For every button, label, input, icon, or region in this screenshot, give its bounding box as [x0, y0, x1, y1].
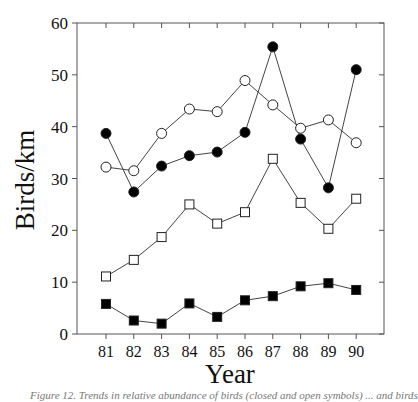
filled-square-marker [324, 279, 333, 288]
open-square-marker [296, 198, 305, 207]
series-filled-circle [101, 42, 361, 197]
x-tick-label: 85 [209, 343, 225, 360]
filled-circle-marker [323, 183, 333, 193]
filled-square-marker [296, 282, 305, 291]
y-tick-label: 30 [51, 170, 68, 189]
filled-circle-marker [240, 127, 250, 137]
plot-frame [77, 23, 384, 334]
x-tick-label: 81 [98, 343, 114, 360]
data-series [101, 42, 361, 328]
series-line [106, 47, 356, 192]
open-square-marker [157, 233, 166, 242]
filled-circle-marker [101, 128, 111, 138]
open-square-marker [185, 200, 194, 209]
open-circle-marker [101, 162, 111, 172]
filled-square-marker [213, 312, 222, 321]
x-tick-label: 82 [126, 343, 142, 360]
y-tick-label: 0 [60, 325, 69, 344]
x-axis-title: Year [205, 359, 255, 389]
open-square-marker [129, 255, 138, 264]
filled-circle-marker [268, 42, 278, 52]
open-square-marker [324, 224, 333, 233]
series-line [106, 81, 356, 171]
y-tick-label: 60 [51, 14, 68, 33]
open-circle-marker [323, 115, 333, 125]
filled-circle-marker [212, 147, 222, 157]
open-circle-marker [296, 123, 306, 133]
filled-square-marker [129, 316, 138, 325]
x-tick-label: 84 [181, 343, 197, 360]
y-axis-title: Birds/km [10, 130, 40, 231]
open-circle-marker [184, 104, 194, 114]
series-open-square [102, 154, 361, 281]
filled-square-marker [268, 292, 277, 301]
filled-circle-marker [351, 65, 361, 75]
figure-caption: Figure 12. Trends in relative abundance … [30, 389, 410, 401]
open-circle-marker [212, 107, 222, 117]
open-square-marker [102, 272, 111, 281]
filled-square-marker [352, 285, 361, 294]
open-circle-marker [157, 128, 167, 138]
x-tick-label: 90 [348, 343, 364, 360]
filled-circle-marker [157, 161, 167, 171]
y-axis: 0102030405060 [51, 14, 384, 344]
filled-square-marker [157, 319, 166, 328]
open-circle-marker [240, 76, 250, 86]
filled-square-marker [102, 299, 111, 308]
open-circle-marker [351, 138, 361, 148]
series-line [106, 283, 356, 323]
open-square-marker [213, 219, 222, 228]
filled-square-marker [241, 296, 250, 305]
series-filled-square [102, 279, 361, 328]
series-open-circle [101, 76, 361, 176]
x-tick-label: 88 [293, 343, 309, 360]
x-tick-label: 86 [237, 343, 253, 360]
x-tick-label: 89 [320, 343, 336, 360]
y-tick-label: 10 [51, 273, 68, 292]
y-tick-label: 50 [51, 66, 68, 85]
series-line [106, 159, 356, 277]
x-tick-label: 83 [154, 343, 170, 360]
y-tick-label: 40 [51, 118, 68, 137]
filled-square-marker [185, 299, 194, 308]
x-tick-label: 87 [265, 343, 281, 360]
open-circle-marker [268, 100, 278, 110]
open-square-marker [241, 208, 250, 217]
filled-circle-marker [184, 151, 194, 161]
open-square-marker [352, 194, 361, 203]
filled-circle-marker [129, 187, 139, 197]
open-square-marker [268, 154, 277, 163]
filled-circle-marker [296, 134, 306, 144]
y-tick-label: 20 [51, 221, 68, 240]
open-circle-marker [129, 166, 139, 176]
